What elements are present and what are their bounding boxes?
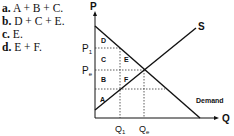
demand-curve bbox=[95, 26, 200, 118]
region-c: C bbox=[101, 56, 106, 63]
quantity-axis-arrow-icon bbox=[214, 116, 219, 120]
supply-demand-diagram: P Q S Demand P1 Pe Q1 Qe A B C D E F bbox=[0, 0, 234, 136]
p1-label: P1 bbox=[82, 43, 93, 55]
p-axis-label: P bbox=[90, 1, 97, 12]
demand-label: Demand bbox=[196, 97, 224, 104]
region-f: F bbox=[124, 76, 129, 83]
qe-label: Qe bbox=[139, 124, 150, 135]
supply-curve bbox=[95, 28, 196, 110]
region-a: A bbox=[100, 96, 105, 103]
q1-label: Q1 bbox=[115, 124, 126, 135]
q-axis-label: Q bbox=[222, 113, 230, 124]
pe-label: Pe bbox=[82, 65, 93, 77]
region-e: E bbox=[124, 56, 129, 63]
region-b: B bbox=[101, 76, 106, 83]
region-d: D bbox=[101, 37, 106, 44]
supply-label: S bbox=[198, 21, 205, 32]
